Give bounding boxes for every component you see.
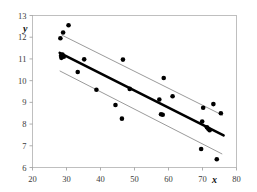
data-point <box>211 102 216 107</box>
data-point <box>113 103 118 108</box>
y-tick-label: 8 <box>22 119 26 129</box>
x-tick-label: 30 <box>62 174 71 184</box>
data-point <box>127 87 132 92</box>
regression-line <box>60 53 224 136</box>
data-point <box>160 112 165 117</box>
y-tick-label: 10 <box>18 76 27 86</box>
data-point <box>120 116 125 121</box>
data-point <box>170 94 175 99</box>
y-tick-label: 13 <box>18 11 27 21</box>
data-point <box>199 147 204 152</box>
x-tick-label: 40 <box>96 174 105 184</box>
lower-confidence-band <box>60 71 223 154</box>
data-point <box>66 23 71 28</box>
upper-confidence-band <box>62 35 223 115</box>
data-point <box>61 54 66 59</box>
y-tick-label: 9 <box>22 97 26 107</box>
y-tick-label: 7 <box>22 141 26 151</box>
data-point <box>157 97 162 102</box>
data-point <box>94 87 99 92</box>
x-tick-label: 80 <box>232 174 241 184</box>
data-point <box>214 157 219 162</box>
y-tick-label: 11 <box>18 54 26 64</box>
x-tick-label: 60 <box>164 174 173 184</box>
data-point <box>75 70 80 75</box>
x-tick-label: 70 <box>198 174 207 184</box>
data-point <box>200 119 205 124</box>
data-point <box>201 105 206 110</box>
chart-figure: 20304050607080 678910111213 y x <box>0 0 257 192</box>
x-axis-tick-labels: 20304050607080 <box>28 174 241 184</box>
data-point <box>82 57 87 62</box>
y-tick-label: 6 <box>22 163 26 173</box>
x-tick-label: 50 <box>130 174 139 184</box>
data-point <box>121 57 126 62</box>
data-point <box>207 128 212 133</box>
data-point <box>61 30 66 35</box>
scatter-plot: 20304050607080 678910111213 y x <box>0 0 257 192</box>
y-axis-tick-labels: 678910111213 <box>18 11 27 173</box>
x-tick-label: 20 <box>28 174 37 184</box>
x-axis-title: x <box>211 174 217 185</box>
y-axis-title: y <box>22 23 28 34</box>
data-point <box>58 36 63 41</box>
data-point <box>161 76 166 81</box>
data-point <box>219 111 224 116</box>
